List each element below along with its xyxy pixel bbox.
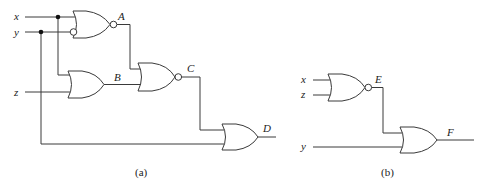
- gate-a-nor: [70, 11, 117, 38]
- output-label-c: C: [187, 62, 195, 74]
- circuit-a: x y z A B: [13, 10, 276, 179]
- gate-b-or: [68, 71, 104, 98]
- input-inverter-bubble: [70, 29, 77, 36]
- output-label-d: D: [262, 122, 271, 134]
- input-label-y: y: [300, 140, 306, 152]
- gate-c-nor: [138, 63, 182, 91]
- wire-x-to-b: [58, 17, 72, 75]
- output-bubble-c: [175, 74, 182, 81]
- output-label-e: E: [374, 73, 382, 85]
- gate-d-or: [222, 124, 258, 150]
- wire-e-to-f: [372, 88, 404, 134]
- caption-b: (b): [381, 166, 394, 179]
- input-label-x: x: [300, 73, 306, 85]
- output-label-a: A: [117, 10, 125, 22]
- logic-circuit-diagram: x y z A B: [0, 0, 492, 195]
- wire-c-to-d: [182, 77, 226, 130]
- gate-f-or: [400, 127, 437, 153]
- output-label-f: F: [446, 126, 454, 138]
- input-label-z: z: [13, 86, 19, 98]
- input-label-y: y: [13, 26, 19, 38]
- input-label-z: z: [300, 88, 306, 100]
- junction-dot-y: [39, 30, 44, 35]
- input-label-x: x: [13, 10, 19, 22]
- output-bubble-a: [110, 21, 117, 28]
- output-bubble-e: [365, 84, 372, 91]
- gate-e-nor: [328, 74, 372, 101]
- caption-a: (a): [135, 166, 148, 179]
- wire-y-to-d: [41, 32, 226, 144]
- output-label-b: B: [114, 71, 121, 83]
- circuit-b: x z y E F (b): [300, 73, 474, 179]
- wire-a-to-c: [117, 25, 142, 70]
- junction-dot-x: [56, 15, 61, 20]
